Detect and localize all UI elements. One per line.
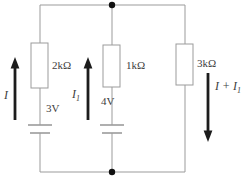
circuit-canvas	[0, 0, 241, 182]
current-i-plus-i1-subscript: 1	[237, 86, 241, 95]
resistor-2k-label: 2kΩ	[52, 59, 71, 71]
junction-node-bottom	[109, 169, 115, 175]
current-i-base: I	[4, 88, 8, 102]
resistor-1k-label: 1kΩ	[126, 59, 145, 71]
current-i-label: I	[4, 89, 8, 106]
current-i1-label: I1	[72, 88, 80, 105]
resistor-2k-box	[31, 43, 48, 88]
battery-3v-label: 3V	[46, 102, 59, 114]
current-i1-subscript: 1	[76, 94, 80, 103]
current-arrow-i1	[84, 57, 93, 120]
battery-4v-label: 4V	[101, 95, 114, 107]
resistor-3k-box	[176, 44, 193, 85]
resistor-1k-box	[103, 45, 120, 87]
resistor-3k-label: 3kΩ	[197, 57, 216, 69]
circuit-diagram: 2kΩ 1kΩ 3kΩ 3V 4V I I1 I + I1	[0, 0, 241, 182]
current-arrow-i	[11, 57, 20, 120]
current-arrow-i-plus-i1	[204, 73, 213, 142]
current-i-plus-i1-label: I + I1	[215, 80, 241, 97]
junction-node-top	[109, 2, 115, 8]
current-i-plus-i1-base: I + I	[215, 79, 237, 93]
